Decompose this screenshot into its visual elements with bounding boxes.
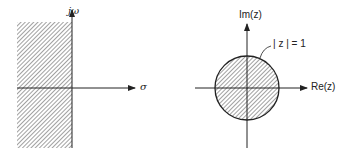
left-half-plane-shading: [17, 22, 72, 148]
jw-axis-label: jω: [68, 5, 79, 16]
im-axis-label: Im(z): [239, 9, 262, 20]
s-plane-diagram: [17, 10, 135, 148]
sigma-axis-label: σ: [140, 81, 147, 92]
diagram-canvas: [0, 0, 351, 158]
re-axis-label: Re(z): [311, 81, 335, 92]
unit-circle-label: | z | = 1: [273, 38, 306, 49]
circle-label-leader: [260, 46, 271, 58]
